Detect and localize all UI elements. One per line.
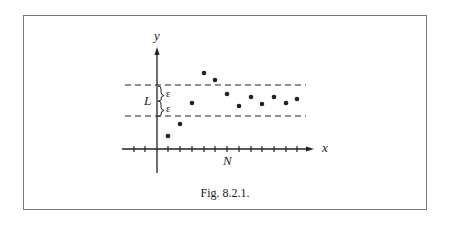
x-axis-arrow-icon: [306, 147, 314, 152]
upper-brace-icon: [158, 86, 164, 101]
limit-label: L: [143, 93, 151, 108]
data-point: [178, 122, 183, 127]
data-point: [260, 102, 265, 107]
epsilon-upper-label: ε: [166, 87, 171, 99]
data-point: [213, 78, 218, 83]
y-axis-label: y: [152, 28, 160, 43]
data-point: [249, 95, 254, 100]
n-index-label: N: [222, 153, 233, 168]
data-point: [295, 97, 300, 102]
figure-caption: Fig. 8.2.1.: [0, 186, 450, 201]
data-point: [225, 92, 230, 97]
sequence-points: [166, 71, 300, 139]
data-point: [166, 134, 171, 139]
epsilon-lower-label: ε: [166, 102, 171, 114]
lower-brace-icon: [158, 101, 164, 117]
x-axis-label: x: [321, 140, 328, 155]
data-point: [272, 95, 277, 100]
data-point: [202, 71, 207, 76]
data-point: [284, 101, 289, 106]
data-point: [237, 104, 242, 109]
data-point: [190, 101, 195, 106]
y-axis-arrow-icon: [155, 47, 160, 55]
